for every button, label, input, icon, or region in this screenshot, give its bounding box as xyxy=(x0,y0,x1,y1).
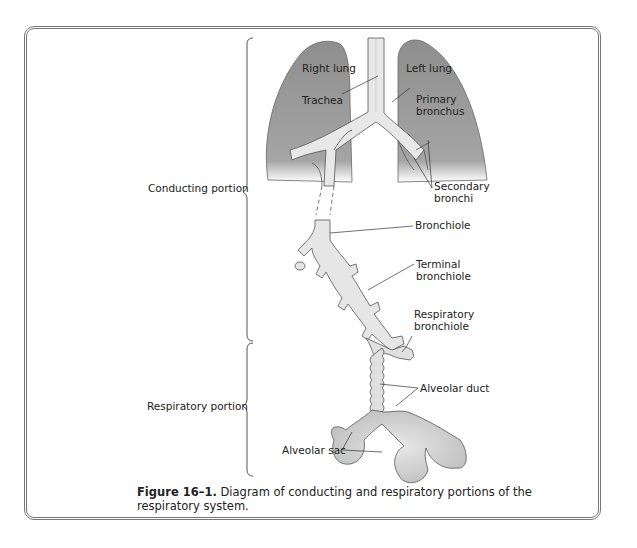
label-primary-bronchus-1: Primary xyxy=(416,93,457,105)
alveolar-duct xyxy=(370,348,384,412)
label-secondary-bronchi-1: Secondary xyxy=(434,180,490,192)
label-primary-bronchus-2: bronchus xyxy=(416,105,464,117)
label-trachea: Trachea xyxy=(301,94,343,106)
label-right-lung: Right lung xyxy=(302,62,356,74)
label-terminal-bronchiole-2: bronchiole xyxy=(416,270,471,282)
caption-number: Figure 16–1. xyxy=(137,485,217,499)
respiratory-diagram: Right lung Left lung Trachea Primary bro… xyxy=(0,0,637,548)
label-bronchiole: Bronchiole xyxy=(415,219,471,231)
label-respiratory-bronchiole-1: Respiratory xyxy=(414,308,474,320)
label-respiratory-portion: Respiratory portion xyxy=(147,400,248,412)
label-conducting-portion: Conducting portion xyxy=(148,182,249,194)
label-respiratory-bronchiole-2: bronchiole xyxy=(414,320,469,332)
label-secondary-bronchi-2: bronchi xyxy=(434,192,473,204)
figure-caption: Figure 16–1. Diagram of conducting and r… xyxy=(137,485,557,513)
label-alveolar-sac: Alveolar sac xyxy=(282,444,346,456)
label-alveolar-duct: Alveolar duct xyxy=(420,382,489,394)
label-terminal-bronchiole-1: Terminal xyxy=(415,258,460,270)
alveolar-sacs xyxy=(331,410,466,483)
bronchiole-tree xyxy=(298,220,404,352)
label-left-lung: Left lung xyxy=(406,62,452,74)
